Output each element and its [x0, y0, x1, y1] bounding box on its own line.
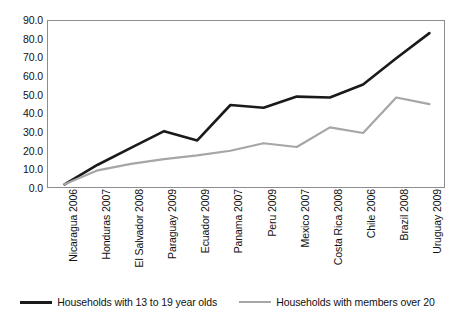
y-axis-tick-label: 80.0 [23, 33, 43, 44]
series-line [65, 98, 430, 185]
legend-label: Households with 13 to 19 year olds [57, 297, 217, 308]
x-axis-tick-label: Panama 2007 [233, 189, 244, 284]
x-axis-tick-label: El Salvador 2008 [134, 189, 145, 284]
y-axis-tick-label: 40.0 [23, 108, 43, 119]
plot-area [47, 20, 445, 188]
plot-series-svg [48, 21, 446, 189]
legend-item-households-over-20: Households with members over 20 [239, 297, 435, 308]
chart-legend: Households with 13 to 19 year olds House… [0, 291, 455, 313]
legend-item-households-13-to-19: Households with 13 to 19 year olds [20, 297, 217, 308]
y-axis: 90.080.070.060.050.040.030.020.010.00.0 [0, 0, 43, 319]
x-axis-tick-label: Costa Rica 2008 [333, 189, 344, 284]
y-axis-tick-label: 10.0 [23, 164, 43, 175]
y-axis-tick-label: 0.0 [29, 183, 43, 194]
x-axis-tick-label: Mexico 2007 [300, 189, 311, 284]
x-axis-tick-label: Honduras 2007 [101, 189, 112, 284]
x-axis-tick-label: Peru 2009 [267, 189, 278, 284]
x-axis-tick-label: Ecuador 2009 [200, 189, 211, 284]
x-axis-tick-label: Nicaragua 2006 [68, 189, 79, 284]
y-axis-tick-label: 70.0 [23, 52, 43, 63]
series-line [65, 33, 430, 184]
y-axis-tick-label: 20.0 [23, 145, 43, 156]
legend-label: Households with members over 20 [276, 297, 435, 308]
y-axis-tick-label: 30.0 [23, 127, 43, 138]
y-axis-tick-label: 60.0 [23, 71, 43, 82]
x-axis: Nicaragua 2006Honduras 2007El Salvador 2… [47, 189, 445, 284]
x-axis-tick-label: Chile 2006 [366, 189, 377, 284]
dark-line-swatch-icon [20, 301, 52, 304]
y-axis-tick-label: 90.0 [23, 15, 43, 26]
line-chart: 90.080.070.060.050.040.030.020.010.00.0 … [0, 0, 455, 319]
y-axis-tick-label: 50.0 [23, 89, 43, 100]
x-axis-tick-label: Uruguay 2009 [432, 189, 443, 284]
x-axis-tick-label: Brazil 2008 [399, 189, 410, 284]
light-line-swatch-icon [239, 301, 271, 303]
x-axis-tick-label: Paraguay 2009 [167, 189, 178, 284]
